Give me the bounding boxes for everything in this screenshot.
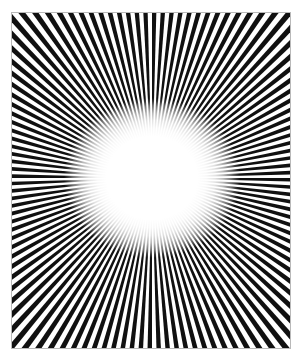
artwork-page: [0, 0, 302, 364]
radial-rays-svg: [12, 13, 290, 348]
artwork-frame: [12, 13, 290, 348]
ray-wedge-group: [12, 13, 290, 348]
radial-rays-layer: [12, 13, 290, 348]
